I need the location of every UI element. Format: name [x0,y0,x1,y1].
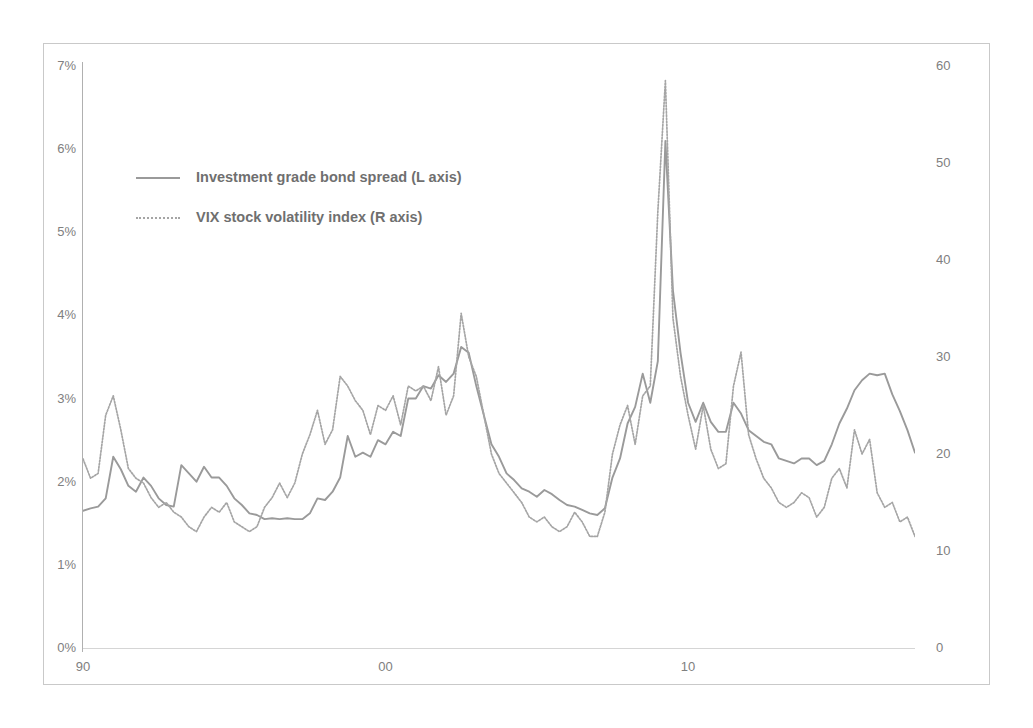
legend-label-vix: VIX stock volatility index (R axis) [196,209,422,225]
left-axis-tick-3%: 3% [40,392,76,405]
x-axis-tick-10: 10 [668,660,708,673]
plot-area [83,66,915,648]
right-axis-tick-50: 50 [936,156,950,169]
left-axis-tick-4%: 4% [40,308,76,321]
legend-item-vix: VIX stock volatility index (R axis) [136,205,556,245]
left-axis-tick-0%: 0% [40,641,76,654]
right-axis-tick-0: 0 [936,641,943,654]
legend-label-bond-spread: Investment grade bond spread (L axis) [196,169,462,185]
chart-legend: Investment grade bond spread (L axis) VI… [136,165,556,245]
left-axis-tick-5%: 5% [40,225,76,238]
right-axis-tick-10: 10 [936,544,950,557]
x-axis-tick-90: 90 [63,660,103,673]
series-line-vix-stock-volatility-index [83,81,915,537]
bottom-axis-line [83,648,915,649]
left-axis-tick-7%: 7% [40,59,76,72]
left-axis-tick-6%: 6% [40,142,76,155]
right-axis-tick-20: 20 [936,447,950,460]
right-axis-tick-40: 40 [936,253,950,266]
left-axis-tick-1%: 1% [40,558,76,571]
x-axis-tick-00: 00 [366,660,406,673]
legend-swatch-dotted-line-icon [136,217,180,219]
legend-swatch-solid-line-icon [136,177,180,179]
right-axis-tick-30: 30 [936,350,950,363]
series-plot [83,66,915,648]
legend-item-bond-spread: Investment grade bond spread (L axis) [136,165,556,205]
chart-figure: 0%1%2%3%4%5%6%7% 0102030405060 900010 In… [0,0,1033,728]
left-axis-tick-2%: 2% [40,475,76,488]
right-axis-tick-60: 60 [936,59,950,72]
